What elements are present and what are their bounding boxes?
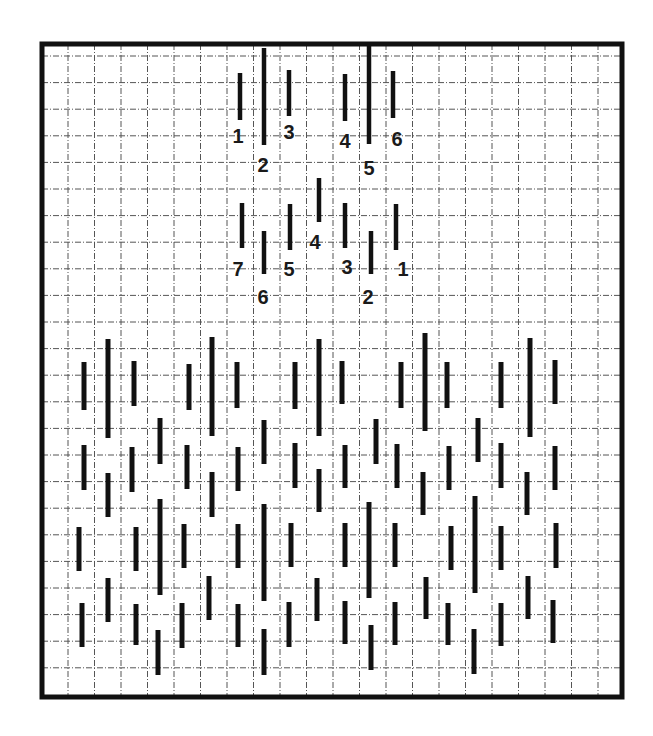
stitch-number-label: 4 xyxy=(309,231,321,253)
stitch-number-label: 3 xyxy=(283,121,294,143)
stitch-number-label: 2 xyxy=(362,286,373,308)
stitch-number-label: 2 xyxy=(257,154,268,176)
stitch-number-label: 6 xyxy=(257,286,268,308)
stitch-number-label: 5 xyxy=(283,258,294,280)
stitch-number-label: 1 xyxy=(397,258,408,280)
stitch-number-label: 3 xyxy=(341,256,352,278)
stitch-number-label: 1 xyxy=(232,125,243,147)
stitch-diagram: 1234567654321 xyxy=(0,0,653,736)
stitch-number-label: 7 xyxy=(232,258,243,280)
stitch-number-label: 4 xyxy=(339,130,351,152)
stitch-number-label: 5 xyxy=(363,157,374,179)
stitch-number-label: 6 xyxy=(391,128,402,150)
